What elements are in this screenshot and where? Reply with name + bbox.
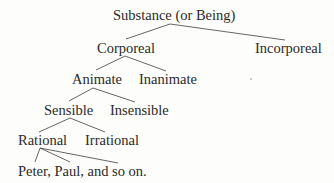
node-substance: Substance (or Being)	[113, 8, 235, 22]
edge-animate-insensible	[93, 88, 135, 102]
edge-sensible-rational	[39, 118, 70, 132]
edge-rational-others	[40, 148, 118, 163]
tree-edges	[0, 0, 334, 183]
node-animate: Animate	[72, 72, 122, 86]
edge-sensible-irrational	[70, 118, 105, 132]
edge-corporeal-inanimate	[125, 56, 166, 71]
edge-rational-paul	[40, 148, 70, 162]
node-sensible: Sensible	[44, 103, 93, 117]
edge-rational-peter	[35, 148, 40, 162]
speck	[250, 78, 252, 80]
edge-corporeal-animate	[96, 56, 125, 70]
node-individuals: Peter, Paul, and so on.	[18, 164, 147, 178]
edge-root-incorporeal	[170, 24, 285, 40]
node-inanimate: Inanimate	[139, 72, 197, 86]
node-irrational: Irrational	[85, 133, 139, 147]
node-corporeal: Corporeal	[97, 41, 155, 55]
edge-root-corporeal	[126, 24, 170, 39]
edge-animate-sensible	[69, 88, 93, 101]
node-rational: Rational	[18, 133, 67, 147]
node-insensible: Insensible	[110, 103, 169, 117]
node-incorporeal: Incorporeal	[255, 41, 322, 55]
